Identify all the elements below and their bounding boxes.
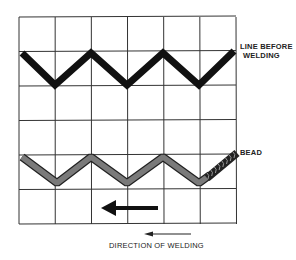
grid-vertical-line bbox=[236, 17, 237, 224]
direction-of-welding-label: DIRECTION OF WELDING bbox=[109, 241, 204, 250]
grid-horizontal-line bbox=[19, 154, 236, 155]
small-direction-arrow bbox=[144, 232, 191, 237]
bead-ripples bbox=[207, 152, 237, 179]
large-direction-arrow bbox=[101, 200, 158, 216]
grid-horizontal-line bbox=[19, 16, 236, 17]
grid-horizontal-line bbox=[19, 223, 236, 224]
bead-label: BEAD bbox=[240, 148, 262, 157]
grid-horizontal-line bbox=[19, 189, 236, 190]
grid-horizontal-line bbox=[19, 51, 236, 52]
grid bbox=[19, 16, 237, 224]
line-before-welding-label: LINE BEFORE WELDING bbox=[240, 42, 293, 60]
weave-pattern-diagram bbox=[0, 0, 296, 260]
grid-horizontal-line bbox=[19, 120, 236, 121]
line-before-label-line1: LINE BEFORE bbox=[240, 42, 293, 51]
line-before-label-line2: WELDING bbox=[240, 51, 293, 60]
